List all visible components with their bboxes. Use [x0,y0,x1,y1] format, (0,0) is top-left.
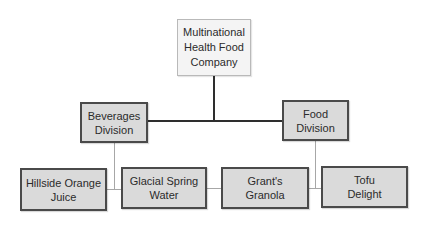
beverages-stem-connector [114,143,115,189]
division-node-beverages: Beverages Division [80,102,148,143]
division-horizontal-connector [148,120,282,122]
division-label-beverages: Beverages Division [88,109,141,137]
product-label-tofu: Tofu Delight [347,173,381,201]
product-label-granola: Grant's Granola [245,174,284,202]
food-products-connector [309,188,321,189]
beverages-products-connector [107,189,121,190]
root-node-company: Multinational Health Food Company [177,19,251,76]
product-node-hillside-orange-juice: Hillside Orange Juice [20,168,107,211]
food-stem-connector [315,141,316,188]
product-node-glacial-spring-water: Glacial Spring Water [121,167,207,209]
root-node-label: Multinational Health Food Company [183,25,245,70]
org-chart: Multinational Health Food Company Bevera… [0,0,428,228]
product-node-tofu-delight: Tofu Delight [321,166,408,208]
product-label-hillside: Hillside Orange Juice [26,176,101,204]
product-label-glacial: Glacial Spring Water [130,174,198,202]
division-label-food: Food Division [296,107,335,135]
division-node-food: Food Division [282,100,349,141]
glacial-granola-connector [207,188,221,189]
product-node-grants-granola: Grant's Granola [221,167,309,209]
root-stem-connector [213,76,215,122]
